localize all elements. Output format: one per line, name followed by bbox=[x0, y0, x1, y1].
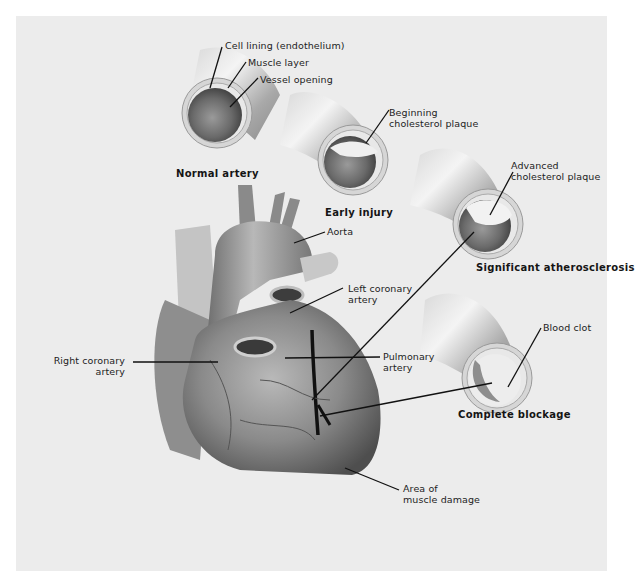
label-left-coronary-line2: artery bbox=[348, 294, 377, 305]
significant-atherosclerosis-artery-image bbox=[410, 148, 523, 259]
caption-complete-blockage: Complete blockage bbox=[458, 409, 571, 420]
label-advanced-plaque-line1: Advanced bbox=[511, 160, 559, 171]
label-cell-lining: Cell lining (endothelium) bbox=[225, 40, 345, 51]
caption-normal-artery: Normal artery bbox=[176, 168, 259, 179]
label-muscle-damage-line1: Area of bbox=[403, 483, 438, 494]
label-left-coronary-line1: Left coronary bbox=[348, 283, 412, 294]
label-pulmonary-line2: artery bbox=[383, 362, 412, 373]
label-pulmonary-line1: Pulmonary bbox=[383, 351, 435, 362]
label-advanced-plaque-line2: cholesterol plaque bbox=[511, 171, 600, 182]
label-right-coronary-line2: artery bbox=[50, 366, 125, 377]
caption-significant-atherosclerosis: Significant atherosclerosis bbox=[476, 262, 635, 273]
label-vessel-opening: Vessel opening bbox=[260, 74, 333, 85]
label-blood-clot: Blood clot bbox=[543, 322, 591, 333]
label-right-coronary-line1: Right coronary bbox=[50, 355, 125, 366]
early-injury-artery-image bbox=[280, 92, 388, 195]
label-beginning-plaque-line2: cholesterol plaque bbox=[389, 118, 478, 129]
complete-blockage-artery-image bbox=[420, 294, 532, 413]
label-aorta: Aorta bbox=[327, 226, 353, 237]
label-muscle-layer: Muscle layer bbox=[248, 57, 309, 68]
label-beginning-plaque-line1: Beginning bbox=[389, 107, 438, 118]
label-muscle-damage-line2: muscle damage bbox=[403, 494, 480, 505]
caption-early-injury: Early injury bbox=[325, 207, 393, 218]
